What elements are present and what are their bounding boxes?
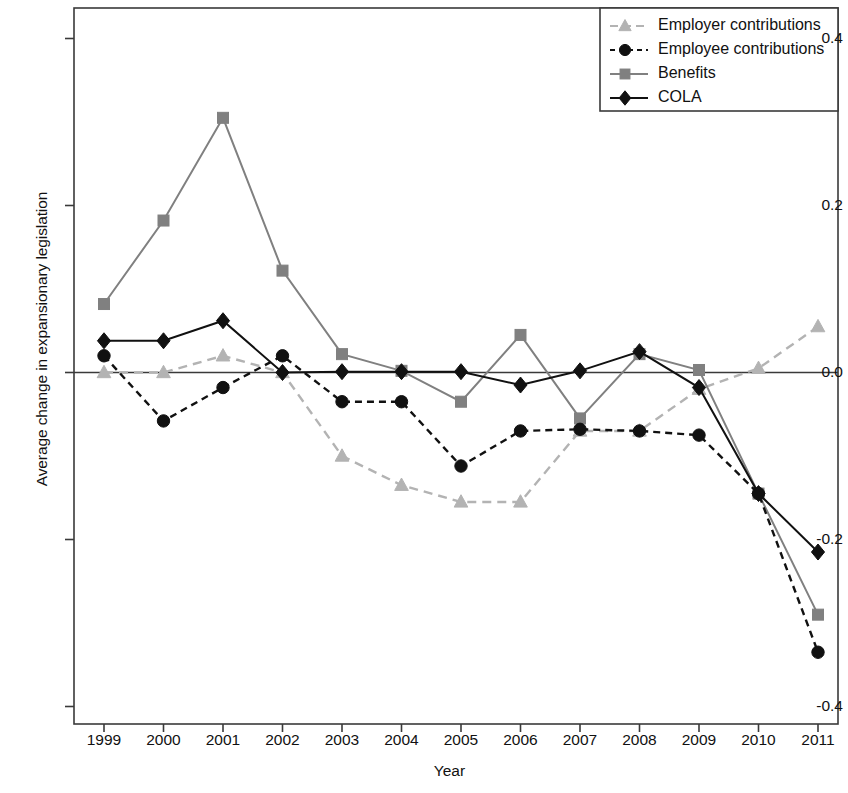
y-tick-label: 0.0: [787, 363, 843, 381]
series-cola: [97, 313, 824, 560]
marker-square: [456, 396, 467, 407]
marker-diamond: [514, 377, 527, 393]
x-tick-label: 2007: [549, 731, 611, 749]
x-tick-label: 2004: [371, 731, 433, 749]
marker-circle: [693, 429, 705, 441]
marker-circle: [455, 460, 467, 472]
marker-circle: [812, 646, 824, 658]
marker-circle: [633, 425, 645, 437]
marker-circle: [157, 415, 169, 427]
marker-square: [575, 413, 586, 424]
marker-circle: [217, 381, 229, 393]
x-tick-label: 2008: [609, 731, 671, 749]
x-tick-label: 2000: [133, 731, 195, 749]
marker-diamond: [97, 333, 110, 349]
marker-square: [218, 112, 229, 123]
marker-diamond: [216, 313, 229, 329]
y-tick-label: -0.2: [787, 530, 843, 548]
plot-frame: [74, 8, 838, 724]
legend-label-1: Employer contributions: [658, 16, 821, 34]
y-tick-label: -0.4: [787, 697, 843, 715]
x-tick-label: 2010: [728, 731, 790, 749]
marker-triangle: [395, 478, 409, 490]
marker-square: [158, 215, 169, 226]
series-employer-contributions: [97, 319, 825, 507]
marker-triangle: [752, 361, 766, 373]
marker-square: [620, 69, 630, 79]
y-tick-label: 0.2: [787, 196, 843, 214]
marker-square: [337, 349, 348, 360]
marker-square: [99, 299, 110, 310]
legend-label-2: Employee contributions: [658, 40, 824, 58]
marker-triangle: [216, 349, 230, 361]
marker-square: [515, 329, 526, 340]
marker-square: [813, 609, 824, 620]
legend-label-3: Benefits: [658, 64, 716, 82]
marker-diamond: [157, 333, 170, 349]
legend-label-4: COLA: [658, 88, 702, 106]
x-tick-label: 2003: [311, 731, 373, 749]
marker-square: [277, 265, 288, 276]
marker-square: [694, 364, 705, 375]
x-tick-label: 2009: [668, 731, 730, 749]
marker-triangle: [811, 319, 825, 331]
marker-diamond: [335, 364, 348, 380]
x-tick-label: 2006: [490, 731, 552, 749]
marker-circle: [619, 44, 630, 55]
x-tick-label: 2002: [252, 731, 314, 749]
marker-circle: [336, 396, 348, 408]
series-line: [104, 321, 818, 552]
x-tick-label: 2005: [430, 731, 492, 749]
x-tick-label: 1999: [73, 731, 135, 749]
marker-diamond: [454, 364, 467, 380]
x-tick-label: 2001: [192, 731, 254, 749]
marker-circle: [276, 350, 288, 362]
marker-diamond: [573, 363, 586, 379]
marker-circle: [98, 350, 110, 362]
marker-circle: [395, 396, 407, 408]
series-line: [104, 327, 818, 502]
marker-circle: [574, 423, 586, 435]
marker-circle: [514, 425, 526, 437]
x-tick-label: 2011: [787, 731, 848, 749]
